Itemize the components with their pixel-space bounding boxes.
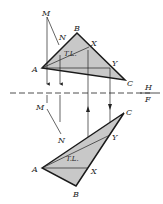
label-h: H (144, 83, 153, 92)
front-mn-line (47, 109, 61, 134)
label-tl-top: T.L. (64, 50, 77, 58)
orthographic-diagram: M N B X T.L. A Y C H F M N C Y T.L. A X … (0, 0, 163, 204)
label-c-front: C (126, 108, 132, 117)
label-m-top: M (41, 9, 51, 18)
label-x-front: X (90, 167, 97, 176)
label-a-top: A (31, 65, 38, 74)
top-mn-line (47, 17, 59, 45)
label-tl-front: T.L. (66, 155, 79, 163)
label-m-front: M (35, 103, 45, 112)
label-n-top: N (58, 33, 67, 42)
top-triangle (42, 33, 125, 80)
label-x-top: X (90, 39, 97, 48)
label-c-top: C (127, 79, 133, 88)
label-f: F (144, 95, 151, 104)
label-b-top: B (73, 24, 80, 33)
arrow-y-down (108, 104, 112, 110)
front-triangle (42, 113, 124, 186)
label-b-front: B (72, 190, 79, 199)
label-n-front: N (57, 136, 66, 145)
arrow-x-up (86, 106, 90, 112)
label-a-front: A (31, 165, 38, 174)
label-y-top: Y (112, 59, 118, 68)
label-y-front: Y (112, 133, 118, 142)
